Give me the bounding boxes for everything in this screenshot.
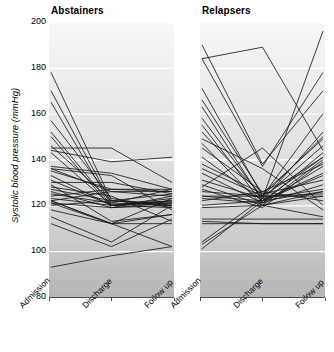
y-axis-tick-180: 180 bbox=[20, 63, 46, 72]
y-axis-tick-140: 140 bbox=[20, 155, 46, 164]
panel-abstainers bbox=[49, 22, 174, 297]
plot-area-relapsers bbox=[200, 22, 325, 297]
x-tick-mark-2 bbox=[325, 298, 326, 301]
y-axis-tick-120: 120 bbox=[20, 200, 46, 209]
figure-root: Systolic blood pressure (mmHg) 200180160… bbox=[0, 0, 334, 352]
panel-relapsers bbox=[200, 22, 325, 297]
panel-title-abstainers: Abstainers bbox=[51, 5, 104, 16]
x-tick-mark-0 bbox=[49, 298, 50, 301]
x-tick-mark-1 bbox=[111, 298, 112, 301]
x-tick-mark-0 bbox=[200, 298, 201, 301]
y-axis-tick-160: 160 bbox=[20, 109, 46, 118]
x-tick-mark-2 bbox=[174, 298, 175, 301]
plot-area-abstainers bbox=[49, 22, 174, 297]
y-axis-tick-100: 100 bbox=[20, 246, 46, 255]
panel-title-relapsers: Relapsers bbox=[202, 5, 251, 16]
y-axis-tick-200: 200 bbox=[20, 17, 46, 26]
x-tick-mark-1 bbox=[262, 298, 263, 301]
